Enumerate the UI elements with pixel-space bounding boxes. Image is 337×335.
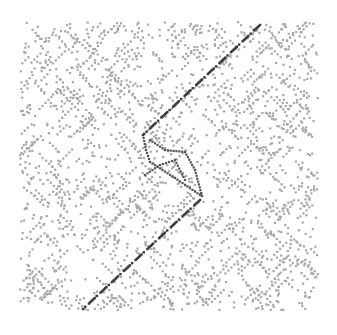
dot-plot-canvas <box>0 0 337 335</box>
